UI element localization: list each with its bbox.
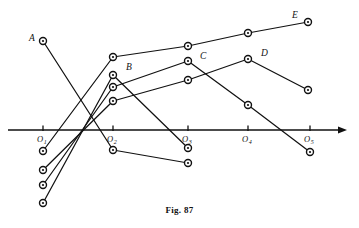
axis-tick-label-3: O3 [182, 134, 192, 145]
data-point-center [247, 58, 249, 60]
data-point-center [112, 86, 114, 88]
data-point-center [307, 89, 309, 91]
data-point-center [309, 151, 311, 153]
axis-tick-label-1: O1 [37, 134, 47, 145]
data-point-center [247, 104, 249, 106]
axis-tick-subscript: 5 [311, 139, 314, 145]
vertex-label-E: E [291, 10, 298, 20]
data-point-center [42, 202, 44, 204]
figure-caption: Fig. 87 [0, 205, 359, 215]
axis-tick-subscript: 1 [44, 139, 47, 145]
data-point-center [187, 147, 189, 149]
axis-tick-label-5: O5 [304, 134, 314, 145]
axis-tick-label-2: O2 [107, 134, 117, 145]
vertex-label-C: C [200, 51, 207, 61]
data-point-center [187, 60, 189, 62]
node-group [40, 19, 314, 207]
data-point-center [42, 150, 44, 152]
vertex-label-A: A [28, 33, 35, 43]
data-point-center [187, 45, 189, 47]
data-point-center [187, 162, 189, 164]
data-point-center [42, 184, 44, 186]
data-point-center [307, 21, 309, 23]
axis-tick-label-4: O4 [242, 134, 252, 145]
axis-tick-subscript: 4 [249, 139, 252, 145]
axis-tick-subscript: 2 [114, 139, 117, 145]
vertex-label-group: ABCDE [28, 10, 298, 72]
data-point-center [112, 100, 114, 102]
data-point-center [42, 40, 44, 42]
polyline-C [43, 61, 310, 185]
figure-canvas: O1O2O3O4O5 ABCDE [0, 0, 359, 228]
data-point-center [187, 79, 189, 81]
vertex-label-B: B [126, 62, 132, 72]
vertex-label-D: D [260, 48, 268, 58]
data-point-center [112, 74, 114, 76]
axis-arrow-icon [338, 127, 347, 134]
axis-tick-subscript: 3 [188, 139, 192, 145]
data-point-center [247, 32, 249, 34]
figure-87: O1O2O3O4O5 ABCDE Fig. 87 [0, 0, 359, 228]
data-point-center [112, 149, 114, 151]
polyline-group [43, 22, 310, 203]
data-point-center [42, 169, 44, 171]
polyline-D [43, 59, 308, 170]
data-point-center [112, 56, 114, 58]
